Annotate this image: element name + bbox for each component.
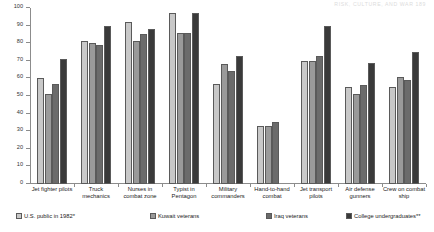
bar bbox=[60, 59, 67, 184]
bar bbox=[316, 56, 323, 184]
running-header: RISK, CULTURE, AND WAR 189 bbox=[334, 1, 426, 7]
bar bbox=[45, 94, 52, 184]
bar-chart-figure: RISK, CULTURE, AND WAR 189 0102030405060… bbox=[0, 0, 434, 232]
bar bbox=[301, 61, 308, 184]
legend-label: Kuwait veterans bbox=[158, 213, 199, 219]
bar bbox=[81, 41, 88, 184]
chart-legend: U.S. public in 1982*Kuwait veteransIraq … bbox=[16, 213, 420, 225]
bar bbox=[221, 64, 228, 184]
category-label-line: Crew on combat bbox=[376, 186, 432, 193]
bar-group bbox=[30, 8, 74, 184]
bar bbox=[125, 22, 132, 184]
legend-swatch bbox=[266, 213, 272, 219]
bar bbox=[309, 61, 316, 184]
legend-item: College undergraduates** bbox=[346, 213, 420, 219]
y-axis-tick-label: 80 bbox=[17, 38, 23, 44]
legend-swatch bbox=[150, 213, 156, 219]
bar bbox=[184, 33, 191, 184]
bar bbox=[272, 122, 279, 184]
bar bbox=[169, 13, 176, 184]
bar bbox=[96, 45, 103, 184]
y-axis-tick-label: 0 bbox=[20, 179, 23, 185]
category-label-line: ship bbox=[376, 193, 432, 200]
bar bbox=[236, 56, 243, 184]
y-axis-tick-label: 100 bbox=[14, 3, 23, 9]
legend-swatch bbox=[346, 213, 352, 219]
bars-layer bbox=[30, 8, 426, 184]
bar bbox=[37, 78, 44, 184]
bar bbox=[140, 34, 147, 184]
bar-group bbox=[294, 8, 338, 184]
category-axis-labels: Jet fighter pilotsTruckmechanicsNurses i… bbox=[30, 186, 426, 210]
bar-group bbox=[206, 8, 250, 184]
bar-group bbox=[162, 8, 206, 184]
bar-group bbox=[338, 8, 382, 184]
bar bbox=[389, 87, 396, 184]
bar bbox=[177, 33, 184, 184]
y-axis-tick-label: 70 bbox=[17, 56, 23, 62]
bar bbox=[257, 126, 264, 184]
bar-group bbox=[382, 8, 426, 184]
y-axis-tick-label: 10 bbox=[17, 161, 23, 167]
plot-area: 0102030405060708090100 bbox=[30, 8, 426, 184]
y-axis-tick-label: 20 bbox=[17, 144, 23, 150]
y-axis-tick-label: 60 bbox=[17, 73, 23, 79]
bar bbox=[52, 84, 59, 184]
bar bbox=[213, 84, 220, 184]
bar-group bbox=[250, 8, 294, 184]
legend-swatch bbox=[16, 213, 22, 219]
bar bbox=[345, 87, 352, 184]
legend-label: College undergraduates** bbox=[354, 213, 420, 219]
bar bbox=[228, 71, 235, 184]
bar-group bbox=[74, 8, 118, 184]
y-axis-tick-label: 90 bbox=[17, 21, 23, 27]
bar bbox=[404, 80, 411, 184]
bar bbox=[133, 41, 140, 184]
legend-item: Iraq veterans bbox=[266, 213, 308, 219]
bar bbox=[265, 126, 272, 184]
legend-item: U.S. public in 1982* bbox=[16, 213, 75, 219]
legend-item: Kuwait veterans bbox=[150, 213, 199, 219]
bar bbox=[89, 43, 96, 184]
bar bbox=[104, 26, 111, 184]
bar bbox=[148, 29, 155, 184]
bar bbox=[412, 52, 419, 184]
legend-label: U.S. public in 1982* bbox=[24, 213, 75, 219]
y-axis-tick-label: 50 bbox=[17, 91, 23, 97]
legend-label: Iraq veterans bbox=[274, 213, 308, 219]
bar bbox=[324, 26, 331, 184]
category-label: Crew on combatship bbox=[376, 186, 432, 201]
bar bbox=[192, 13, 199, 184]
bar bbox=[360, 85, 367, 184]
bar bbox=[368, 63, 375, 184]
bar bbox=[353, 94, 360, 184]
y-axis-tick-label: 30 bbox=[17, 126, 23, 132]
y-axis-tick-label: 40 bbox=[17, 109, 23, 115]
bar-group bbox=[118, 8, 162, 184]
bar bbox=[397, 77, 404, 184]
